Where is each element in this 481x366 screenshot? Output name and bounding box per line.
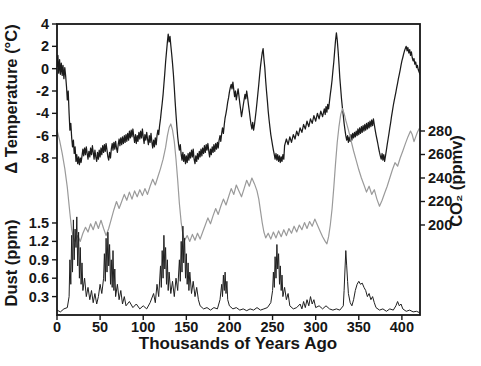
x-tick-label: 250 (260, 319, 284, 335)
chart-canvas: 420-2-4-6-81.51.20.90.60.328026024022020… (0, 0, 481, 366)
dust-axis-label: Dust (ppm) (2, 219, 20, 306)
dust-tick-label: 1.2 (29, 233, 49, 249)
temperature-tick-label: -2 (36, 83, 49, 99)
dust-curve (57, 217, 419, 313)
vostok-ice-core-figure: 420-2-4-6-81.51.20.90.60.328026024022020… (0, 0, 481, 366)
plot-area: 420-2-4-6-81.51.20.90.60.328026024022020… (29, 16, 452, 335)
temperature-tick-label: -4 (36, 105, 49, 121)
x-tick-label: 0 (53, 319, 61, 335)
temperature-axis-label: Δ Temperature (°C) (2, 24, 20, 173)
temperature-tick-label: -8 (36, 150, 49, 166)
x-tick-label: 100 (131, 319, 155, 335)
x-tick-label: 200 (217, 319, 241, 335)
x-tick-label: 300 (304, 319, 328, 335)
temperature-tick-label: 4 (41, 16, 49, 32)
x-axis-label: Thousands of Years Ago (139, 334, 337, 353)
dust-tick-label: 0.6 (29, 270, 49, 286)
temperature-tick-label: -6 (36, 128, 49, 144)
dust-tick-label: 0.3 (29, 289, 49, 305)
x-tick-label: 350 (347, 319, 371, 335)
co2-axis-label: CO₂ (ppmv) (447, 135, 465, 227)
x-tick-label: 150 (174, 319, 198, 335)
temperature-tick-label: 0 (41, 61, 49, 77)
x-tick-label: 400 (390, 319, 414, 335)
temperature-curve (57, 33, 420, 165)
temperature-tick-label: 2 (41, 38, 49, 54)
dust-tick-label: 1.5 (29, 215, 49, 231)
dust-tick-label: 0.9 (29, 252, 49, 268)
x-tick-label: 50 (92, 319, 108, 335)
